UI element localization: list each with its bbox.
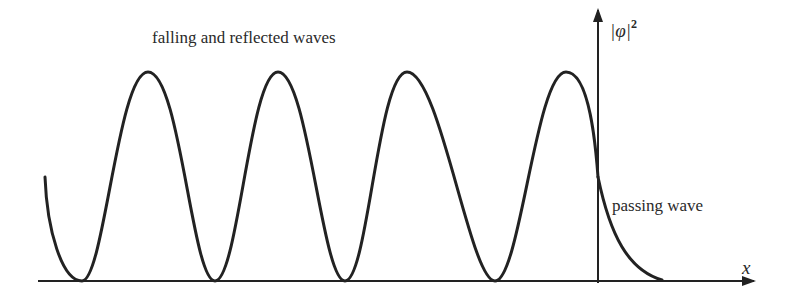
- diagram-canvas: [0, 0, 795, 306]
- passing-wave-label: passing wave: [612, 196, 703, 216]
- passing-wave-curve: [598, 177, 662, 280]
- x-axis-label: x: [742, 257, 750, 279]
- y-axis-exponent: 2: [631, 17, 637, 31]
- y-axis-label: |φ|2: [610, 17, 637, 42]
- falling-reflected-label: falling and reflected waves: [152, 28, 336, 48]
- y-axis-symbol: |φ|: [610, 20, 631, 41]
- wave-diagram: falling and reflected waves passing wave…: [0, 0, 795, 306]
- standing-wave-curve: [45, 72, 598, 281]
